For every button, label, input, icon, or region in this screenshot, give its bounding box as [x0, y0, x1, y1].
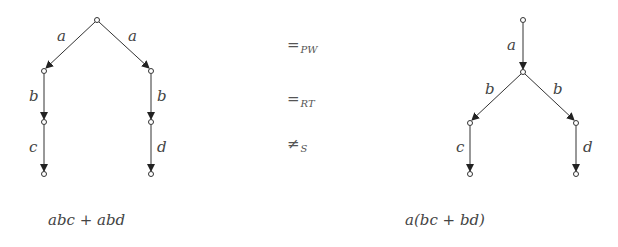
edge-label: b — [485, 80, 495, 98]
edge-label: c — [29, 138, 37, 156]
relation-s: ≠S — [287, 135, 307, 153]
edge-label: c — [456, 138, 464, 156]
edge-label: d — [157, 138, 167, 156]
edge-label: d — [583, 138, 593, 156]
edge-label: a — [507, 36, 516, 54]
edge-label: a — [57, 27, 66, 45]
right-expression: a(bc + bd) — [405, 211, 485, 229]
edge-label: b — [553, 80, 563, 98]
relation-pw: =PW — [287, 36, 318, 54]
left-expression: abc + abd — [48, 211, 125, 229]
relation-rt: =RT — [287, 90, 315, 108]
edge-label: a — [128, 27, 137, 45]
edge-label: b — [157, 87, 167, 105]
edge-label: b — [29, 87, 39, 105]
